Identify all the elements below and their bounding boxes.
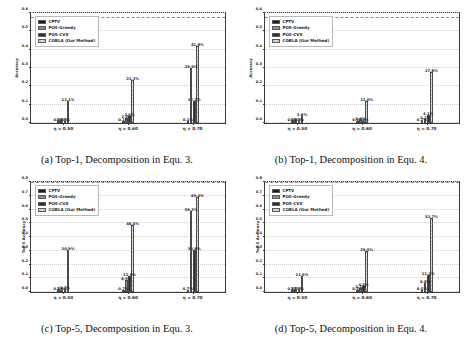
legend-label: POS-CVX (283, 33, 303, 37)
y-tick-label: 0.6 (256, 7, 262, 11)
y-tick-label: 0.6 (22, 204, 28, 208)
x-tick-label: η = 0.60 (352, 295, 372, 300)
bar-value-label: 23.3% (126, 77, 139, 81)
bar-value-label: 0.5% (54, 287, 64, 291)
legend-item: COBLA (Our Method) (272, 38, 329, 45)
y-axis-label: Accuracy (14, 58, 19, 77)
panel-caption-c: (c) Top-5, Decomposition in Equ. 3. (0, 323, 234, 334)
panel-grid: 0.00.10.20.30.40.50.6Accuracy0.1%0.3%0.3… (0, 0, 468, 338)
bar-pos-cvx: 12.2% (427, 275, 430, 292)
bar-group: 0.1%29.9%12.2%41.8% (160, 13, 225, 123)
plot-area-a: 0.00.10.20.30.40.50.6Accuracy0.1%0.3%0.3… (0, 4, 234, 147)
x-tick-mark (63, 292, 64, 294)
panel-d: 0.00.10.20.30.40.50.60.70.8Top-5 Accurac… (234, 169, 468, 338)
bar-cptv: 0.1% (291, 121, 294, 123)
figure-sheet: 0.00.10.20.30.40.50.6Accuracy0.1%0.3%0.3… (0, 0, 468, 338)
y-tick-label: 0.0 (22, 117, 28, 121)
bar-value-label: 29.9% (185, 65, 198, 69)
panel-b: 0.00.10.20.30.40.50.6Accuracy0.1%0.3%0.2… (234, 0, 468, 169)
legend-swatch (272, 39, 280, 43)
y-tick-label: 0.7 (22, 190, 28, 194)
bar-value-label: 59.2% (185, 207, 198, 211)
bar-group: 0.7%8.9%11.9%48.5% (96, 182, 161, 292)
y-tick-label: 0.4 (256, 44, 262, 48)
legend-label: CPTV (49, 189, 61, 193)
x-tick-label: η = 0.50 (287, 295, 307, 300)
bar-pos-cvx: 30.8% (193, 250, 196, 292)
bar-value-label: 27.8% (425, 69, 438, 73)
y-tick-label: 0.2 (22, 259, 28, 263)
legend-swatch (38, 26, 46, 30)
x-tick-label: η = 0.70 (417, 295, 437, 300)
y-tick-label: 0.1 (22, 272, 28, 276)
y-tick-label: 0.8 (22, 176, 28, 180)
legend-swatch (38, 202, 46, 206)
legend-swatch (272, 195, 280, 199)
y-tick-label: 0.0 (256, 117, 262, 121)
bar-cptv: 0.5% (356, 290, 359, 292)
panel-caption-a: (a) Top-1, Decomposition in Equ. 3. (0, 154, 234, 165)
legend-swatch (272, 189, 280, 193)
y-tick-label: 0.3 (22, 62, 28, 66)
bar-cptv: 0.1% (187, 121, 190, 123)
bar-value-label: 0.5% (288, 287, 298, 291)
y-tick-label: 0.7 (256, 190, 262, 194)
panel-caption-b: (b) Top-1, Decomposition in Equ. 4. (234, 154, 468, 165)
legend-label: POS-Greedy (283, 26, 310, 30)
bar-value-label: 0.1% (118, 118, 128, 122)
y-tick-label: 0.5 (256, 25, 262, 29)
x-tick-mark (193, 292, 194, 294)
y-tick-label: 0.1 (256, 99, 262, 103)
bar-value-label: 30.9% (62, 246, 75, 250)
legend-item: COBLA (Our Method) (272, 207, 329, 214)
legend-label: POS-Greedy (283, 195, 310, 199)
bar-cptv: 0.1% (57, 121, 60, 123)
y-tick-label: 0.0 (256, 286, 262, 290)
legend-swatch (272, 202, 280, 206)
bar-cobla: 53.7% (430, 218, 433, 292)
legend-label: COBLA (Our Method) (49, 208, 96, 212)
bar-cptv: 0.7% (187, 290, 190, 292)
x-tick-label: η = 0.50 (53, 126, 73, 131)
bar-group: 0.5%6.8%12.2%53.7% (394, 182, 459, 292)
bar-pos-cvx: 1.2% (298, 290, 301, 292)
bar-value-label: 0.7% (118, 287, 128, 291)
legend-label: POS-CVX (49, 202, 69, 206)
x-tick-label: η = 0.70 (183, 126, 203, 131)
bar-pos-greedy: 59.2% (190, 211, 193, 292)
y-tick-label: 0.2 (256, 259, 262, 263)
y-tick-label: 0.3 (256, 62, 262, 66)
bar-cptv: 0.1% (122, 121, 125, 123)
x-tick-label: η = 0.60 (118, 295, 138, 300)
bar-value-label: 0.1% (352, 118, 362, 122)
bar-value-label: 12.2% (422, 272, 435, 276)
panel-a: 0.00.10.20.30.40.50.6Accuracy0.1%0.3%0.3… (0, 0, 234, 169)
bar-value-label: 0.1% (288, 118, 298, 122)
legend-label: POS-CVX (49, 33, 69, 37)
bar-cobla: 48.5% (131, 225, 134, 292)
legend-swatch (38, 33, 46, 37)
legend-a: CPTVPOS-GreedyPOS-CVXCOBLA (Our Method) (35, 16, 99, 47)
bar-value-label: 0.7% (183, 287, 193, 291)
bar-cptv: 0.2% (421, 121, 424, 123)
bar-pos-cvx: 1.0% (362, 121, 365, 123)
axes-c: 0.00.10.20.30.40.50.60.70.8Top-5 Accurac… (30, 181, 226, 293)
legend-swatch (272, 20, 280, 24)
bar-value-label: 69.4% (191, 193, 204, 197)
x-tick-mark (297, 123, 298, 125)
y-tick-label: 0.5 (22, 25, 28, 29)
bar-group: 0.1%2.9%3.6%23.3% (96, 13, 161, 123)
bar-cptv: 0.5% (421, 290, 424, 292)
legend-label: POS-Greedy (49, 26, 76, 30)
y-axis-label: Top-5 Accuracy (255, 221, 260, 253)
legend-label: POS-CVX (283, 202, 303, 206)
bar-value-label: 8.9% (121, 276, 131, 280)
x-tick-label: η = 0.70 (183, 295, 203, 300)
y-tick-label: 0.1 (22, 99, 28, 103)
x-tick-mark (297, 292, 298, 294)
legend-b: CPTVPOS-GreedyPOS-CVXCOBLA (Our Method) (269, 16, 333, 47)
bar-value-label: 0.1% (183, 118, 193, 122)
panel-c: 0.00.10.20.30.40.50.60.70.8Top-5 Accurac… (0, 169, 234, 338)
bar-value-label: 11.9% (296, 272, 309, 276)
y-tick-label: 0.4 (22, 44, 28, 48)
